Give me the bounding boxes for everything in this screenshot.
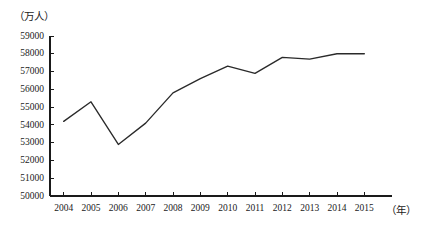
x-axis-tick-label: 2007	[136, 203, 155, 213]
y-axis-tick-label: 53000	[20, 137, 44, 147]
y-axis-tick-label: 50000	[20, 191, 44, 201]
data-series-line	[64, 54, 365, 145]
x-axis-tick-label: 2006	[109, 203, 128, 213]
chart-canvas: 5900058000570005600055000540005300052000…	[0, 0, 421, 232]
line-chart: （万人） （年） 5900058000570005600055000540005…	[0, 0, 421, 232]
x-axis-tick-label: 2011	[246, 203, 265, 213]
y-axis-tick-label: 54000	[20, 120, 44, 130]
x-axis-tick-label: 2008	[164, 203, 183, 213]
x-axis-tick-label: 2013	[300, 203, 319, 213]
x-axis-tick-label: 2014	[328, 203, 347, 213]
y-axis-tick-label: 52000	[20, 155, 44, 165]
y-axis-tick-label: 55000	[20, 102, 44, 112]
x-axis-tick-label: 2005	[82, 203, 101, 213]
x-axis-tick-label: 2012	[273, 203, 292, 213]
x-axis-tick-label: 2015	[355, 203, 374, 213]
x-axis-tick-label: 2004	[54, 203, 73, 213]
x-axis-tick-label: 2009	[191, 203, 210, 213]
x-axis-tick-labels: 2004200520062007200820092010201120122013…	[54, 203, 374, 213]
x-axis-tick-label: 2010	[218, 203, 237, 213]
y-axis-tick-label: 59000	[20, 31, 44, 41]
y-axis-tick-labels: 5900058000570005600055000540005300052000…	[20, 31, 44, 201]
x-axis-tick-marks	[64, 192, 365, 196]
y-axis-tick-label: 58000	[20, 48, 44, 58]
y-axis-tick-marks	[50, 36, 54, 196]
y-axis-tick-label: 57000	[20, 66, 44, 76]
y-axis-tick-label: 51000	[20, 173, 44, 183]
y-axis-tick-label: 56000	[20, 84, 44, 94]
